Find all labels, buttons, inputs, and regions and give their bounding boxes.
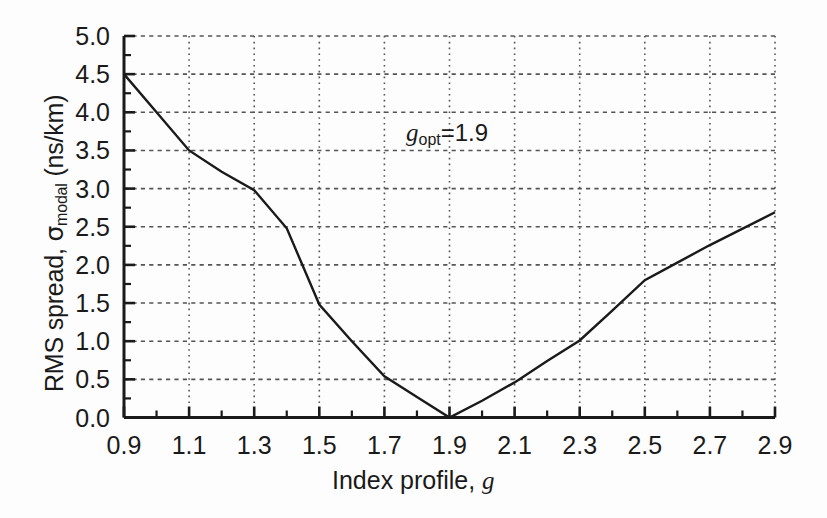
x-tick-label: 2.9 bbox=[758, 431, 793, 459]
annotation-value: =1.9 bbox=[441, 119, 488, 146]
grid-lines bbox=[124, 36, 775, 418]
x-axis-title-prefix: Index profile, bbox=[332, 466, 482, 494]
y-tick-label: 1.0 bbox=[75, 327, 110, 355]
axis-frame bbox=[124, 36, 775, 418]
y-tick-label: 5.0 bbox=[75, 22, 110, 50]
x-tick-label: 2.1 bbox=[497, 431, 532, 459]
y-axis-title-suffix: (ns/km) bbox=[40, 95, 68, 184]
y-tick-label: 0.0 bbox=[75, 404, 110, 432]
y-tick-label: 2.0 bbox=[75, 251, 110, 279]
x-tick-label: 1.1 bbox=[172, 431, 207, 459]
x-tick-label: 0.9 bbox=[107, 431, 142, 459]
annotation-symbol: g bbox=[406, 119, 419, 146]
tick-marks bbox=[124, 36, 775, 418]
y-axis-subscript: modal bbox=[53, 183, 70, 226]
x-tick-label: 1.5 bbox=[302, 431, 337, 459]
x-tick-label: 2.3 bbox=[562, 431, 597, 459]
x-tick-label: 1.3 bbox=[237, 431, 272, 459]
y-tick-label: 3.5 bbox=[75, 136, 110, 164]
y-tick-label: 4.0 bbox=[75, 98, 110, 126]
annotation-subscript: opt bbox=[419, 131, 441, 148]
y-axis-title: RMS spread, σmodal (ns/km) bbox=[40, 95, 71, 392]
y-tick-label: 0.5 bbox=[75, 365, 110, 393]
sigma-symbol: σ bbox=[40, 226, 69, 242]
g-opt-annotation: gopt=1.9 bbox=[406, 119, 488, 149]
x-tick-label: 2.5 bbox=[627, 431, 662, 459]
tick-labels: 0.00.51.01.52.02.53.03.54.04.55.00.91.11… bbox=[75, 22, 792, 459]
y-tick-label: 3.0 bbox=[75, 175, 110, 203]
x-tick-label: 1.7 bbox=[367, 431, 402, 459]
chart-plot: 0.00.51.01.52.02.53.03.54.04.55.00.91.11… bbox=[0, 0, 827, 518]
figure-canvas: 0.00.51.01.52.02.53.03.54.04.55.00.91.11… bbox=[0, 0, 827, 518]
x-axis-title: Index profile, g bbox=[332, 466, 495, 495]
y-tick-label: 2.5 bbox=[75, 213, 110, 241]
y-tick-label: 4.5 bbox=[75, 60, 110, 88]
x-tick-label: 1.9 bbox=[432, 431, 467, 459]
y-axis-title-prefix: RMS spread, bbox=[40, 242, 68, 392]
y-tick-label: 1.5 bbox=[75, 289, 110, 317]
x-axis-title-symbol: g bbox=[482, 467, 495, 494]
x-tick-label: 2.7 bbox=[693, 431, 728, 459]
